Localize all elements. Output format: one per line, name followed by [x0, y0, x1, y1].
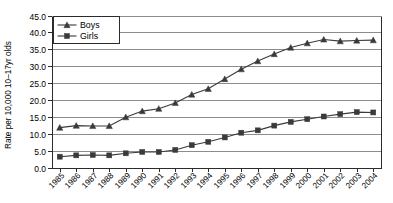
- x-tick-label: 2000: [294, 171, 314, 191]
- data-point-marker: [206, 139, 211, 144]
- chart-canvas: Rate per 10,000 10–17yr olds 0.05.010.01…: [0, 0, 393, 203]
- y-tick-label: 0.0: [34, 164, 46, 174]
- y-tick-label: 25.0: [29, 79, 46, 89]
- data-point-marker: [255, 58, 261, 64]
- y-tick-label: 20.0: [29, 96, 46, 106]
- x-tick-label: 1998: [261, 171, 281, 191]
- data-point-marker: [123, 151, 128, 156]
- chart-legend: BoysGirls: [54, 17, 120, 44]
- x-axis-ticks: 1985198619871988198919901991199219931994…: [47, 168, 380, 191]
- x-tick-label: 1993: [179, 171, 199, 191]
- data-point-marker: [271, 51, 277, 57]
- line-chart: Rate per 10,000 10–17yr olds 0.05.010.01…: [0, 0, 393, 203]
- x-tick-label: 1992: [162, 171, 182, 191]
- data-point-marker: [354, 110, 359, 115]
- y-axis-ticks: 0.05.010.015.020.025.030.035.040.045.0: [29, 12, 51, 174]
- y-tick-label: 10.0: [29, 130, 46, 140]
- x-tick-label: 2002: [327, 171, 347, 191]
- x-tick-label: 1994: [195, 171, 215, 191]
- x-tick-label: 2003: [344, 171, 364, 191]
- data-point-marker: [156, 149, 161, 154]
- data-point-marker: [222, 76, 228, 82]
- x-tick-label: 1985: [47, 171, 67, 191]
- y-tick-label: 30.0: [29, 62, 46, 72]
- data-point-marker: [288, 119, 293, 124]
- data-point-marker: [222, 135, 227, 140]
- legend-label: Girls: [80, 31, 99, 41]
- x-tick-label: 1987: [80, 171, 100, 191]
- data-point-marker: [321, 114, 326, 119]
- y-tick-label: 45.0: [29, 12, 46, 22]
- y-tick-label: 35.0: [29, 45, 46, 55]
- data-point-marker: [57, 154, 62, 159]
- y-tick-label: 15.0: [29, 113, 46, 123]
- x-tick-label: 1996: [228, 171, 248, 191]
- x-tick-label: 1986: [63, 171, 83, 191]
- data-point-marker: [272, 123, 277, 128]
- x-tick-label: 1995: [212, 171, 232, 191]
- x-tick-label: 1997: [245, 171, 265, 191]
- data-point-marker: [239, 130, 244, 135]
- legend-label: Boys: [80, 20, 100, 30]
- y-axis-title: Rate per 10,000 10–17yr olds: [4, 41, 13, 149]
- data-point-marker: [74, 153, 79, 158]
- data-point-marker: [189, 143, 194, 148]
- data-point-marker: [205, 86, 211, 92]
- data-point-marker: [338, 112, 343, 117]
- data-point-marker: [90, 153, 95, 158]
- data-point-marker: [371, 110, 376, 115]
- x-tick-label: 2001: [311, 171, 331, 191]
- data-point-marker: [305, 117, 310, 122]
- y-tick-label: 40.0: [29, 28, 46, 38]
- x-tick-label: 1990: [129, 171, 149, 191]
- data-series: [57, 36, 377, 159]
- x-tick-label: 1999: [278, 171, 298, 191]
- data-point-marker: [140, 149, 145, 154]
- data-point-marker: [107, 153, 112, 158]
- y-axis-title-group: Rate per 10,000 10–17yr olds: [4, 41, 13, 149]
- x-tick-label: 1991: [146, 171, 166, 191]
- y-tick-label: 5.0: [34, 147, 46, 157]
- data-point-marker: [255, 128, 260, 133]
- data-point-marker: [173, 147, 178, 152]
- data-point-marker: [65, 34, 70, 39]
- x-tick-label: 2004: [360, 171, 380, 191]
- x-tick-label: 1988: [96, 171, 116, 191]
- x-tick-label: 1989: [113, 171, 133, 191]
